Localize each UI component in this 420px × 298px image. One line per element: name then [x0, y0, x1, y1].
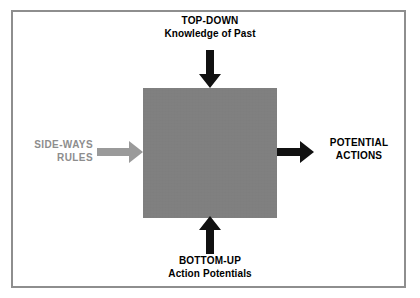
diagram-canvas: TOP-DOWN Knowledge of Past BOTTOM-UP Act… — [0, 0, 420, 298]
label-side-ways-rules: SIDE-WAYS RULES — [18, 138, 93, 164]
label-potential-actions: POTENTIAL ACTIONS — [317, 136, 401, 162]
label-side-ways-rules-line1: SIDE-WAYS — [18, 138, 93, 151]
label-potential-actions-line2: ACTIONS — [317, 149, 401, 162]
arrow-up-icon — [198, 216, 222, 254]
arrow-right-icon-sideways — [97, 140, 143, 164]
label-potential-actions-line1: POTENTIAL — [317, 136, 401, 149]
label-top-down-line1: TOP-DOWN — [140, 14, 280, 27]
label-bottom-up: BOTTOM-UP Action Potentials — [140, 254, 280, 280]
arrow-down-icon — [198, 50, 222, 88]
processing-box — [143, 88, 277, 218]
label-bottom-up-line1: BOTTOM-UP — [140, 254, 280, 267]
label-top-down-line2: Knowledge of Past — [140, 27, 280, 40]
label-side-ways-rules-line2: RULES — [18, 151, 93, 164]
label-top-down: TOP-DOWN Knowledge of Past — [140, 14, 280, 40]
arrow-right-icon-output — [277, 140, 314, 164]
label-bottom-up-line2: Action Potentials — [140, 267, 280, 280]
